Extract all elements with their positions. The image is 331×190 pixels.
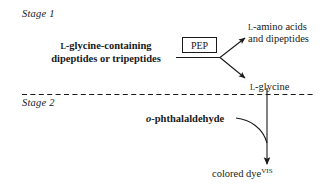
product-colored-dye-label: colored dyeVIS — [212, 168, 273, 180]
glycine-text: -glycine — [255, 81, 289, 92]
enzyme-pep-box: PEP — [182, 37, 217, 53]
branch-arrow-upper — [220, 38, 245, 58]
product-amino-acids-label: L-amino acids and dipeptides — [248, 21, 309, 46]
figure-canvas: Stage 1 L-glycine-containing dipeptides … — [0, 0, 331, 190]
stage-1-label: Stage 1 — [22, 8, 55, 20]
substrate-label: L-glycine-containing dipeptides or tripe… — [36, 40, 176, 66]
branch-arrow-lower — [220, 58, 245, 79]
substrate-line-1: -glycine-containing — [66, 40, 152, 51]
reagent-curved-connector — [236, 118, 267, 143]
amino-line-2: and dipeptides — [248, 33, 309, 44]
substrate-line-2: dipeptides or tripeptides — [51, 53, 160, 64]
dye-text: colored dye — [212, 168, 261, 179]
dye-superscript-vis: VIS — [261, 167, 272, 175]
amino-line-1: -amino acids — [253, 21, 307, 32]
reagent-phthalaldehyde-label: o-phthalaldehyde — [146, 113, 224, 125]
product-glycine-label: L-glycine — [250, 81, 289, 93]
stage-2-label: Stage 2 — [22, 97, 55, 109]
reagent-text: -phthalaldehyde — [151, 113, 224, 124]
